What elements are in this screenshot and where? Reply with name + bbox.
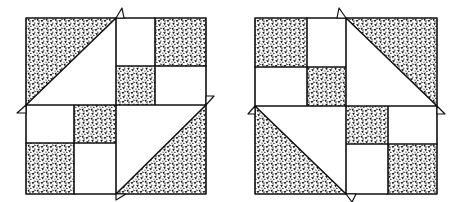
block-right-br-patch-shaded-a [346,106,388,144]
block-right-tl-patch-shaded-b [307,67,346,106]
block-left-bl-patch-shaded-a [74,105,116,143]
block-left-flag-top [116,8,124,18]
block-left-bl-patch-shaded-b [26,143,74,194]
block-left-tr-patch-shaded-a [155,18,206,66]
quilt-blocks-illustration [0,0,463,202]
block-right-flag-left [248,106,255,114]
block-right-flag-top [337,8,346,18]
block-left-tr-patch-shaded-b [116,66,155,105]
block-left-flag-bottom [116,194,126,200]
block-right-flag-bottom [346,194,356,202]
block-left-flag-right [206,96,214,105]
block-right-br-patch-shaded-b [388,144,437,194]
quilt-block-left [17,8,214,200]
block-left-flag-left [17,105,26,113]
block-right-tl-patch-shaded-a [255,18,307,67]
quilt-block-right [248,8,445,202]
block-right-flag-right [437,106,445,114]
